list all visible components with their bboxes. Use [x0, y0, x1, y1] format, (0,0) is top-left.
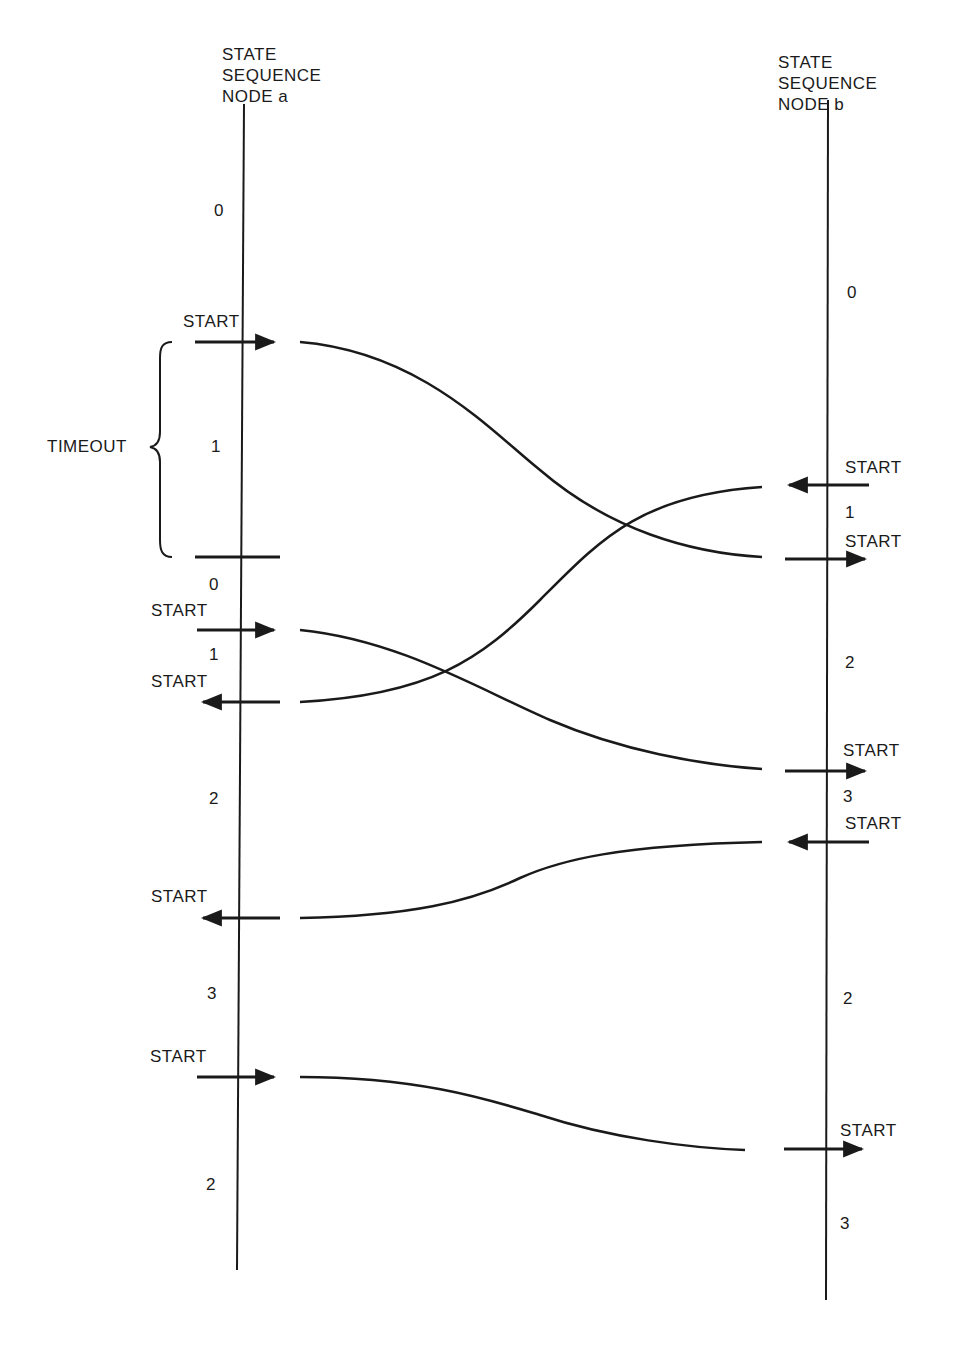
- message-curve-b-to-a-2: [300, 842, 762, 918]
- node-a-state: 2: [209, 790, 219, 807]
- header-line: SEQUENCE: [778, 73, 877, 94]
- node-a-state: 0: [214, 202, 224, 219]
- node-a-state: 3: [207, 985, 217, 1002]
- node-a-start-label: START: [183, 313, 240, 330]
- node-b-timeline: [826, 100, 828, 1300]
- node-a-state: 1: [211, 438, 221, 455]
- timeout-brace: [150, 342, 172, 557]
- header-line: NODE b: [778, 94, 877, 115]
- node-a-start-label: START: [151, 888, 208, 905]
- sequence-diagram: [0, 0, 954, 1347]
- node-b-state: 3: [840, 1215, 850, 1232]
- node-b-state: 1: [845, 504, 855, 521]
- node-b-state: 2: [843, 990, 853, 1007]
- node-a-state: 1: [209, 646, 219, 663]
- node-b-start-label: START: [845, 815, 902, 832]
- node-b-state: 3: [843, 788, 853, 805]
- message-curve-a-to-b-2: [300, 630, 762, 769]
- node-b-header: STATE SEQUENCE NODE b: [778, 52, 877, 115]
- node-b-start-label: START: [840, 1122, 897, 1139]
- node-a-header: STATE SEQUENCE NODE a: [222, 44, 321, 107]
- node-b-state: 2: [845, 654, 855, 671]
- message-curve-a-to-b-1: [300, 342, 762, 557]
- header-line: NODE a: [222, 86, 321, 107]
- node-a-start-label: START: [151, 602, 208, 619]
- node-b-start-label: START: [843, 742, 900, 759]
- node-a-timeline: [237, 104, 244, 1270]
- node-b-start-label: START: [845, 533, 902, 550]
- node-b-state: 0: [847, 284, 857, 301]
- timeout-label: TIMEOUT: [47, 438, 127, 455]
- message-curve-b-to-a-1: [300, 487, 762, 702]
- header-line: STATE: [778, 52, 877, 73]
- node-a-state: 2: [206, 1176, 216, 1193]
- header-line: STATE: [222, 44, 321, 65]
- node-a-state: 0: [209, 576, 219, 593]
- message-curve-a-to-b-3: [300, 1077, 745, 1150]
- header-line: SEQUENCE: [222, 65, 321, 86]
- node-a-start-label: START: [150, 1048, 207, 1065]
- node-b-start-label: START: [845, 459, 902, 476]
- node-a-start-label: START: [151, 673, 208, 690]
